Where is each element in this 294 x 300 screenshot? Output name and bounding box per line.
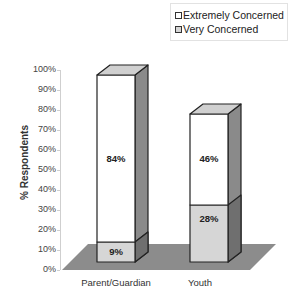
bar-label-parent-extremely: 84%: [97, 153, 135, 164]
bar-label-parent-very: 9%: [97, 246, 135, 257]
chart-plot-area: [0, 0, 294, 300]
bar-label-youth-extremely: 46%: [190, 153, 228, 164]
bar-label-youth-very: 28%: [190, 213, 228, 224]
x-label-parent-guardian: Parent/Guardian: [66, 277, 166, 288]
bar-youth: [190, 104, 241, 262]
y-axis: [57, 70, 61, 271]
chart-floor: [62, 244, 276, 270]
x-label-youth: Youth: [170, 277, 230, 288]
